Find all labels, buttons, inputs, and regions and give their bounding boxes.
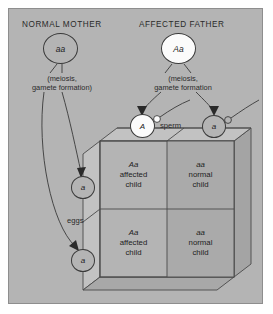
punnett-cell-line2: child [192,180,208,190]
sperm-gamete-a: a [202,115,226,138]
egg-gamete-2: a [71,249,95,272]
header-affected-father: AFFECTED FATHER [139,20,224,29]
eggs-label: eggs [67,216,83,225]
father-meiosis-note: (meiosis, gamete formation [131,74,235,92]
mother-genotype-circle: aa [43,33,78,64]
egg-gamete-1: a [71,176,95,199]
punnett-cell-line1: affected [120,238,148,248]
sperm-label: sperm [160,121,181,130]
punnett-cell-line2: child [125,248,141,258]
mother-meiosis-note: (meiosis, gamete formation) [10,74,114,92]
punnett-square-figure: NORMAL MOTHER AFFECTED FATHER aa Aa (mei… [0,0,273,314]
punnett-cell-genotype: Aa [129,228,139,238]
punnett-cell-genotype: aa [196,228,205,238]
punnett-cell-line1: affected [120,170,148,180]
punnett-cell-bottom-left: Aa affected child [100,209,167,277]
punnett-cell-top-left: Aa affected child [100,141,167,209]
punnett-cell-line1: normal [189,238,213,248]
father-genotype-circle: Aa [161,33,196,64]
sperm-gamete-A: A [130,114,155,138]
punnett-cell-top-right: aa normal child [167,141,234,209]
punnett-cell-genotype: aa [196,160,205,170]
punnett-cell-line2: child [192,248,208,258]
punnett-cell-line2: child [125,180,141,190]
punnett-cell-line1: normal [189,170,213,180]
header-normal-mother: NORMAL MOTHER [22,20,102,29]
punnett-cell-genotype: Aa [129,160,139,170]
punnett-cell-bottom-right: aa normal child [167,209,234,277]
